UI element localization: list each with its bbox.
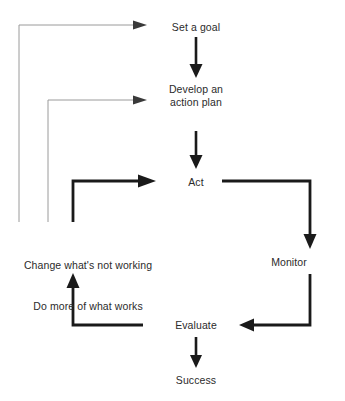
flowchart-diagram: Set a goal Develop an action plan Act Mo… [0, 0, 345, 401]
node-set-a-goal: Set a goal [172, 21, 220, 34]
node-act: Act [188, 176, 203, 189]
annotation-change-note-line-1: Change what's not working [24, 259, 152, 273]
edge-monitor-to-evaluate [239, 274, 310, 332]
arrowhead-act-to-monitor [304, 234, 317, 249]
edge-evaluate-to-success [190, 337, 202, 368]
edge-plan-to-act [190, 131, 203, 169]
node-success: Success [176, 374, 216, 387]
edge-feedback-to-goal [19, 21, 147, 223]
annotation-change-note: Change what's not working Do more of wha… [24, 232, 152, 340]
arrowhead-change-note-to-act [138, 175, 156, 188]
edge-goal-to-plan [190, 37, 203, 78]
node-monitor: Monitor [271, 256, 307, 269]
arrowhead-feedback-to-plan [133, 96, 147, 105]
edge-feedback-to-plan [48, 96, 147, 223]
node-evaluate: Evaluate [175, 319, 217, 332]
node-develop-an-action-plan: Develop an action plan [169, 83, 223, 109]
arrowhead-plan-to-act [190, 155, 203, 169]
edge-change-note-to-act [73, 175, 156, 223]
arrowhead-evaluate-to-success [190, 355, 202, 368]
arrowhead-feedback-to-goal [133, 21, 147, 30]
arrowhead-goal-to-plan [190, 64, 203, 78]
arrowhead-monitor-to-evaluate [239, 319, 254, 332]
edge-act-to-monitor [222, 181, 317, 249]
annotation-change-note-line-2: Do more of what works [24, 300, 152, 314]
flowchart-connectors [0, 0, 345, 401]
